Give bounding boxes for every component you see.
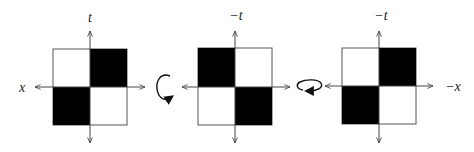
panel-1: t x (18, 10, 145, 143)
rotation-diagram: t x −t −t −x (0, 0, 474, 152)
rotation-about-vertical-axis-icon (297, 80, 321, 91)
panel-2: −t (182, 8, 290, 143)
filled-quadrant-top-left (198, 48, 235, 87)
vertical-axis-label: −t (229, 8, 243, 23)
filled-quadrant-bottom-left (53, 87, 90, 125)
vertical-axis-label: −t (374, 8, 388, 23)
filled-quadrant-top-right (379, 48, 416, 86)
filled-quadrant-bottom-left (342, 86, 379, 124)
horizontal-axis-label: −x (445, 79, 461, 94)
vertical-axis-label: t (88, 10, 93, 25)
panel-3: −t −x (325, 8, 462, 143)
rotation-about-horizontal-axis-icon (157, 75, 170, 99)
filled-quadrant-top-right (90, 49, 127, 87)
filled-quadrant-bottom-right (235, 87, 272, 125)
horizontal-axis-label: x (18, 80, 26, 95)
